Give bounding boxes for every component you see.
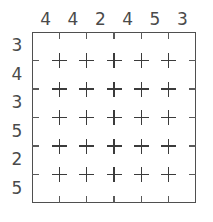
column-label-3: 2 [91,11,109,29]
tick-top-1 [59,32,60,39]
row-label-2: 4 [8,66,26,84]
tick-top-5 [168,32,169,39]
tick-left-2 [32,88,39,89]
tick-bottom-5 [168,196,169,203]
tick-left-5 [32,174,39,175]
row-label-4: 5 [8,123,26,141]
column-label-4: 4 [119,11,137,29]
tick-right-1 [189,60,196,61]
tick-right-2 [189,88,196,89]
column-label-6: 3 [173,11,191,29]
tick-right-3 [189,117,196,118]
tick-bottom-3 [113,196,114,203]
tick-bottom-2 [86,196,87,203]
row-label-5: 2 [8,151,26,169]
tick-right-4 [189,145,196,146]
tick-bottom-1 [59,196,60,203]
tick-right-5 [189,174,196,175]
row-label-1: 3 [8,37,26,55]
grid-puzzle-figure: 442453 343525 [0,0,213,222]
row-label-3: 3 [8,94,26,112]
tick-left-4 [32,145,39,146]
column-label-1: 4 [37,11,55,29]
row-label-6: 5 [8,180,26,198]
tick-top-2 [86,32,87,39]
tick-left-3 [32,117,39,118]
tick-top-3 [113,32,114,39]
tick-bottom-4 [141,196,142,203]
tick-top-4 [141,32,142,39]
column-label-5: 5 [146,11,164,29]
column-label-2: 4 [64,11,82,29]
tick-left-1 [32,60,39,61]
